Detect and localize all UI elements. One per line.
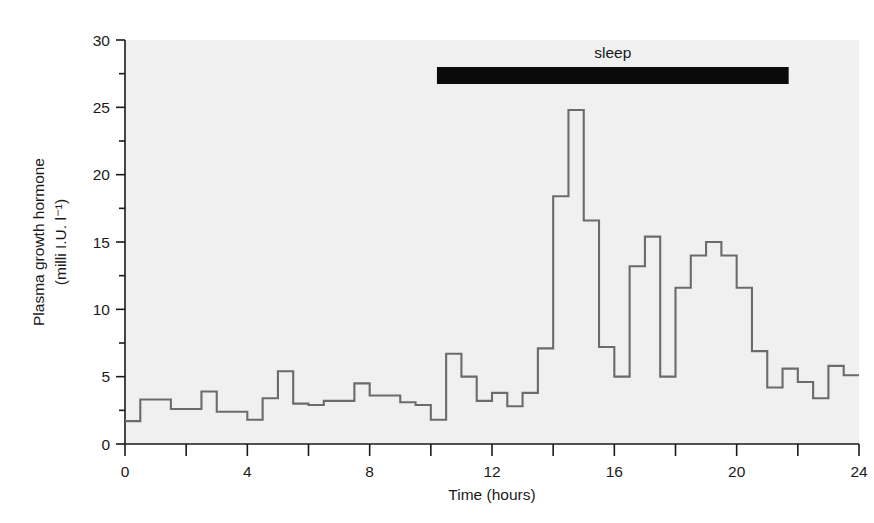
x-tick-label: 0 [121,463,130,480]
x-tick-label: 8 [365,463,374,480]
x-tick-label: 24 [850,463,868,480]
x-tick-label: 16 [606,463,623,480]
plot-area-background [125,40,859,444]
y-tick-label: 15 [93,234,110,251]
y-axis-title-line2: (milli I.U. l⁻¹) [52,199,69,285]
sleep-period-label: sleep [594,44,631,61]
y-tick-label: 25 [93,99,110,116]
x-tick-label: 4 [243,463,252,480]
plasma-growth-hormone-chart: 051015202530 04812162024 sleep Time (hou… [0,0,874,523]
x-tick-label: 20 [728,463,746,480]
y-axis-title-line1: Plasma growth hormone [30,158,47,326]
sleep-period-bar [437,67,789,84]
y-tick-label: 10 [93,301,111,318]
y-tick-label: 30 [93,32,111,49]
x-tick-label: 12 [483,463,500,480]
y-tick-label: 20 [93,166,111,183]
y-tick-label: 0 [101,436,110,453]
y-tick-label: 5 [101,368,110,385]
x-axis-title: Time (hours) [448,486,535,503]
chart-figure: 051015202530 04812162024 sleep Time (hou… [0,0,874,523]
